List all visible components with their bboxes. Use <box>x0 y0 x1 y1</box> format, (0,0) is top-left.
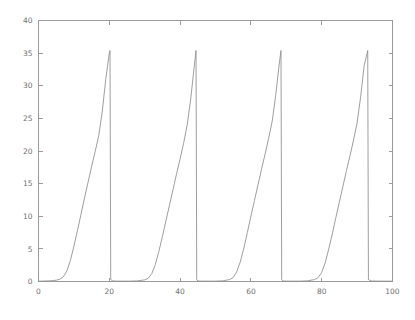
y-axis-tick-label: 25 <box>23 114 33 123</box>
y-axis-tick-label: 40 <box>23 16 33 25</box>
y-axis-tick-label: 35 <box>23 49 33 58</box>
chart-background <box>0 0 415 320</box>
x-axis-tick-label: 100 <box>385 287 400 296</box>
y-axis-tick-label: 20 <box>23 147 33 156</box>
x-axis-tick-label: 20 <box>105 287 115 296</box>
x-axis-tick-label: 80 <box>317 287 327 296</box>
x-axis-tick-label: 40 <box>175 287 185 296</box>
y-axis-tick-label: 15 <box>23 179 33 188</box>
y-axis-tick-label: 0 <box>28 277 33 286</box>
y-axis-tick-label: 10 <box>23 212 33 221</box>
y-axis-tick-label: 5 <box>28 245 33 254</box>
chart-container: 0510152025303540020406080100 <box>0 0 415 320</box>
y-axis-tick-label: 30 <box>23 81 33 90</box>
x-axis-tick-label: 60 <box>246 287 256 296</box>
x-axis-tick-label: 0 <box>36 287 41 296</box>
spike-train-line-chart: 0510152025303540020406080100 <box>0 0 415 320</box>
